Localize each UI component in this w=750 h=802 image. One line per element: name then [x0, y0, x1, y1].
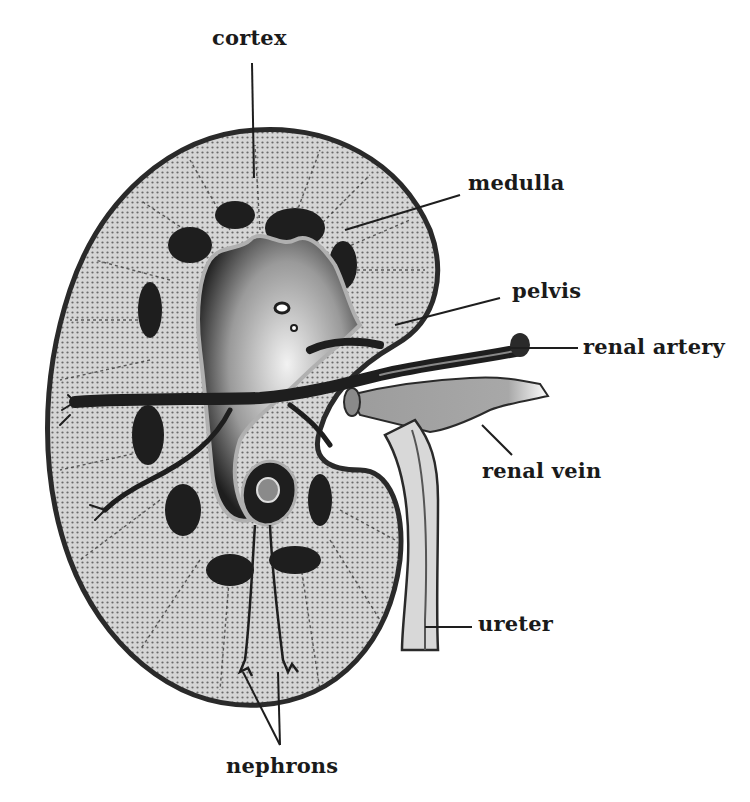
- kidney-illustration: [0, 0, 750, 802]
- label-cortex: cortex: [212, 25, 287, 50]
- label-renal-artery: renal artery: [583, 334, 725, 359]
- label-renal-vein: renal vein: [482, 458, 601, 483]
- label-pelvis: pelvis: [512, 278, 581, 303]
- kidney-diagram: cortex medulla pelvis renal artery renal…: [0, 0, 750, 802]
- leader-renal-vein: [482, 425, 512, 455]
- renal-vein: [344, 377, 548, 432]
- label-medulla: medulla: [468, 170, 565, 195]
- label-nephrons: nephrons: [226, 753, 338, 778]
- renal-artery-end: [510, 333, 530, 357]
- label-ureter: ureter: [478, 611, 553, 636]
